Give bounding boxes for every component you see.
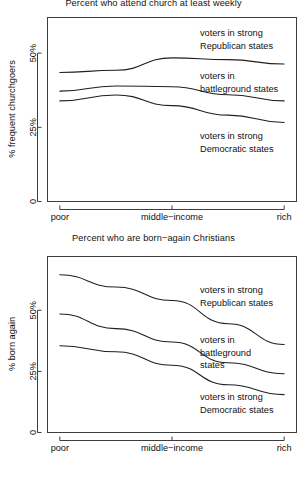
series-annotation-text: Republican states — [200, 298, 273, 308]
x-tick-label: middle−income — [141, 443, 203, 453]
y-tick-label: 25% — [28, 362, 38, 380]
figure-container: Percent who attend church at least weekl… — [0, 0, 307, 477]
series-annotation-text: Democratic states — [200, 144, 274, 154]
data-line — [60, 95, 284, 123]
series-annotation-text: voters in — [200, 335, 235, 345]
x-axis-bottom: poormiddle−incomerich — [51, 437, 292, 453]
x-tick-label: rich — [277, 212, 292, 222]
x-tick-label: poor — [51, 443, 69, 453]
y-axis-top: 025%50% — [28, 44, 42, 204]
y-axis-bottom: 025%50% — [28, 301, 42, 435]
plot-area-top: 025%50% poormiddle−incomerich voters in … — [0, 0, 307, 230]
series-annotation-text: Democratic states — [200, 405, 274, 415]
series-annotation-text: voters in — [200, 71, 235, 81]
plot-area-bottom: 025%50% poormiddle−incomerich voters in … — [0, 230, 307, 477]
y-tick-label: 50% — [28, 44, 38, 62]
series-annotation-text: voters in strong — [200, 392, 263, 402]
x-axis-top: poormiddle−incomerich — [51, 206, 292, 222]
y-tick-label: 0 — [28, 199, 38, 204]
x-tick-label: poor — [51, 212, 69, 222]
series-annotations-top: voters in strongRepublican statesvoters … — [200, 28, 279, 154]
y-tick-label: 50% — [28, 301, 38, 319]
x-tick-label: rich — [277, 443, 292, 453]
series-annotation-text: Republican states — [200, 41, 273, 51]
x-tick-label: middle−income — [141, 212, 203, 222]
chart-panel-born-again: Percent who are born−again Christians % … — [0, 230, 307, 477]
y-tick-label: 0 — [28, 430, 38, 435]
series-annotation-text: voters in strong — [200, 285, 263, 295]
series-annotation-text: voters in strong — [200, 28, 263, 38]
series-annotation-text: states — [200, 360, 225, 370]
series-annotation-text: voters in strong — [200, 131, 263, 141]
data-line — [60, 58, 284, 73]
series-annotations-bottom: voters in strongRepublican statesvoters … — [200, 285, 274, 415]
y-tick-label: 25% — [28, 118, 38, 136]
series-annotation-text: battleground — [200, 348, 251, 358]
chart-panel-church-attendance: Percent who attend church at least weekl… — [0, 0, 307, 230]
series-annotation-text: battleground states — [200, 84, 279, 94]
